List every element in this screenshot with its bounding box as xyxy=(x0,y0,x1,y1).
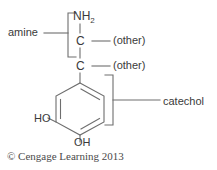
label-amino-group-text: NH xyxy=(73,9,90,23)
label-amino-group: NH2 xyxy=(73,10,95,25)
double-bond-top-right xyxy=(81,89,100,100)
label-carbon-1: C xyxy=(76,35,85,47)
copyright-notice: © Cengage Learning 2013 xyxy=(7,150,124,162)
label-other-2: (other) xyxy=(113,60,145,71)
label-carbon-2: C xyxy=(76,60,85,72)
double-bond-bottom-right xyxy=(81,119,100,130)
catecholamine-diagram: amine NH2 C C (other) (other) HO OH cate… xyxy=(0,0,217,170)
label-amine: amine xyxy=(8,27,38,38)
label-hydroxyl-bottom: OH xyxy=(74,137,91,148)
catechol-bracket xyxy=(105,75,113,125)
benzene-ring xyxy=(56,83,104,135)
label-hydroxyl-left: HO xyxy=(34,113,51,124)
label-catechol: catechol xyxy=(163,96,204,107)
label-other-1: (other) xyxy=(113,35,145,46)
label-amino-group-subscript: 2 xyxy=(90,16,94,25)
